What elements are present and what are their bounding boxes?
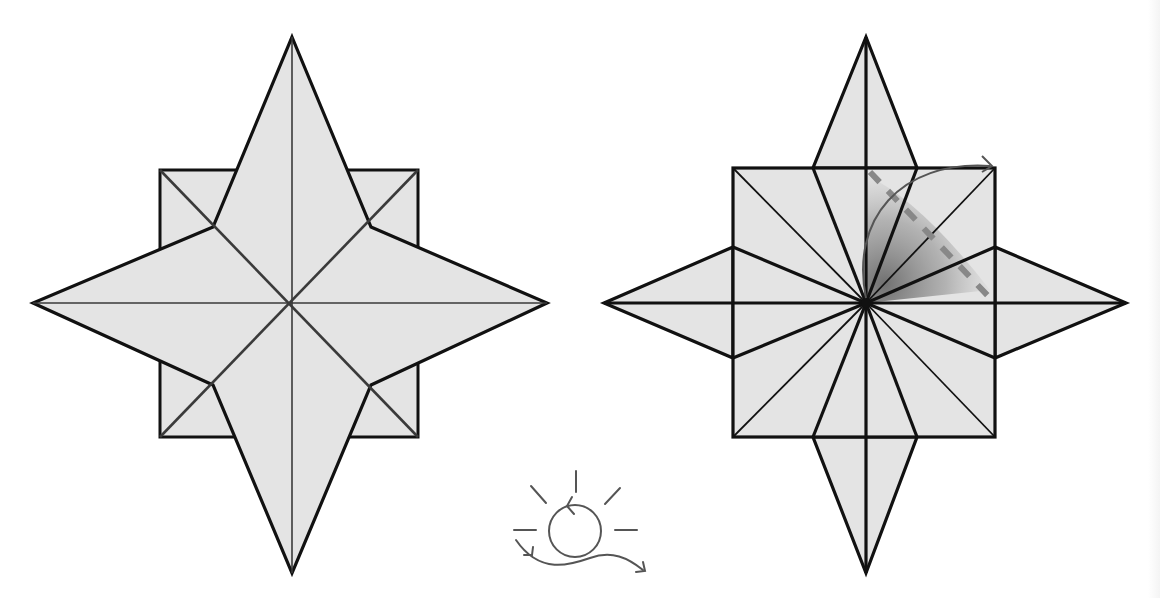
- star-folded: [33, 37, 547, 573]
- star-unfolded: [604, 37, 1126, 573]
- turn-over-icon: [514, 471, 645, 572]
- origami-diagram: [0, 0, 1160, 598]
- center-point: [861, 298, 871, 308]
